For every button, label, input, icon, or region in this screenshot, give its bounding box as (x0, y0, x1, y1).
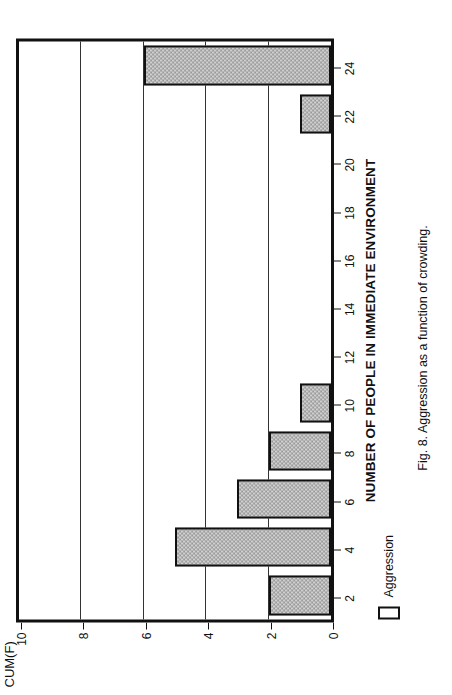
x-tick-label-22: 22 (343, 110, 357, 123)
bar-slot-6 (19, 479, 331, 518)
x-tick-label-12: 12 (343, 350, 357, 363)
x-tick-4 (334, 549, 341, 550)
y-tick-0 (333, 622, 334, 629)
x-tick-label-14: 14 (343, 302, 357, 315)
plot-inner (19, 41, 331, 619)
x-tick-24 (334, 67, 341, 68)
x-tick-label-24: 24 (343, 61, 357, 74)
y-tick-4 (208, 622, 209, 629)
bar-2[interactable] (269, 575, 331, 614)
x-tick-2 (334, 597, 341, 598)
y-tick-10 (21, 622, 22, 629)
y-tick-label-2: 2 (265, 632, 279, 639)
y-tick-6 (146, 622, 147, 629)
bar-slot-4 (19, 527, 331, 566)
rotated-figure-wrapper: CUM(F) 0246810 24681012141618202224 NUMB… (0, 0, 452, 695)
legend: Aggression (378, 534, 400, 619)
figure-page: CUM(F) 0246810 24681012141618202224 NUMB… (0, 0, 452, 695)
bar-slot-12 (19, 334, 331, 373)
x-tick-14 (334, 308, 341, 309)
x-tick-label-10: 10 (343, 399, 357, 412)
x-tick-18 (334, 212, 341, 213)
x-tick-16 (334, 260, 341, 261)
x-tick-12 (334, 356, 341, 357)
x-tick-22 (334, 115, 341, 116)
x-tick-label-18: 18 (343, 206, 357, 219)
bar-slot-8 (19, 431, 331, 470)
x-tick-20 (334, 163, 341, 164)
bar-slot-24 (19, 45, 331, 84)
x-tick-label-8: 8 (343, 450, 357, 457)
bar-24[interactable] (144, 45, 331, 84)
bar-6[interactable] (237, 479, 331, 518)
bar-8[interactable] (269, 431, 331, 470)
bar-slot-20 (19, 142, 331, 181)
x-tick-label-16: 16 (343, 254, 357, 267)
x-tick-6 (334, 501, 341, 502)
y-tick-8 (83, 622, 84, 629)
bar-slot-22 (19, 94, 331, 133)
figure: CUM(F) 0246810 24681012141618202224 NUMB… (0, 0, 452, 695)
y-axis-title: CUM(F) (2, 641, 17, 687)
bar-slot-10 (19, 383, 331, 422)
bar-slot-14 (19, 286, 331, 325)
figure-caption: Fig. 8. Aggression as a function of crow… (416, 0, 430, 695)
bar-slot-16 (19, 238, 331, 277)
x-tick-label-2: 2 (343, 595, 357, 602)
bar-10[interactable] (300, 383, 331, 422)
legend-label-aggression: Aggression (382, 534, 396, 597)
x-tick-10 (334, 404, 341, 405)
plot-area (16, 38, 334, 622)
y-tick-label-8: 8 (77, 632, 91, 639)
bar-slot-2 (19, 575, 331, 614)
bar-22[interactable] (300, 94, 331, 133)
y-tick-2 (271, 622, 272, 629)
y-tick-label-6: 6 (140, 632, 154, 639)
y-axis: 0246810 (16, 622, 334, 669)
y-tick-label-4: 4 (202, 632, 216, 639)
y-tick-label-0: 0 (327, 632, 341, 639)
bar-4[interactable] (175, 527, 331, 566)
x-tick-label-4: 4 (343, 546, 357, 553)
y-tick-label-10: 10 (15, 632, 29, 645)
legend-swatch-aggression (378, 606, 400, 619)
bar-slot-18 (19, 190, 331, 229)
x-tick-label-6: 6 (343, 498, 357, 505)
x-tick-8 (334, 452, 341, 453)
x-tick-label-20: 20 (343, 158, 357, 171)
x-axis-title: NUMBER OF PEOPLE IN IMMEDIATE ENVIRONMEN… (363, 38, 378, 622)
